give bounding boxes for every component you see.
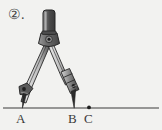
- compass-handle: [42, 10, 56, 34]
- point-label-c: C: [84, 112, 93, 125]
- compass-figure: ②. A B C: [0, 0, 162, 130]
- point-marker-c: [87, 106, 91, 110]
- pencil-lead-tip: [71, 89, 76, 108]
- point-label-a: A: [16, 112, 25, 125]
- point-label-b: B: [68, 112, 77, 125]
- item-number-label: ②.: [8, 8, 25, 22]
- compass-hinge: [39, 33, 60, 47]
